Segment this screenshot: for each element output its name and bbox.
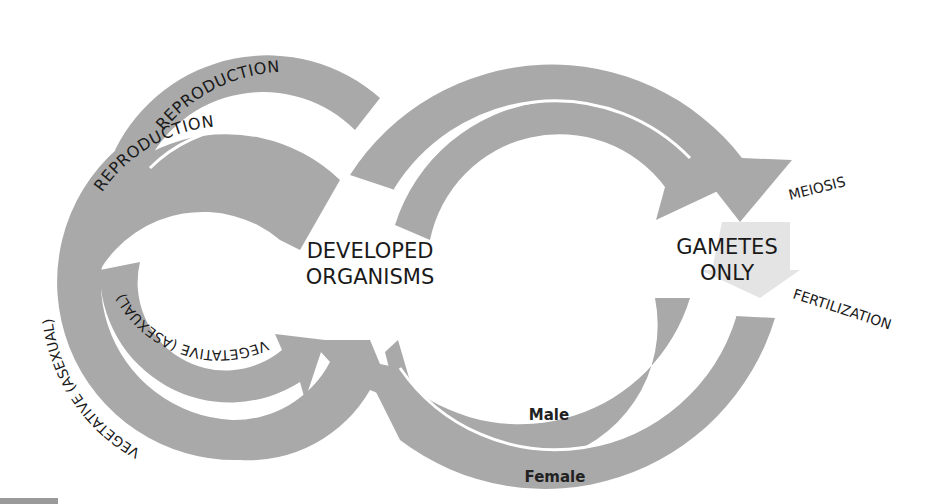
- gametes-only-line1: GAMETES: [676, 235, 777, 259]
- corner-swatch: [0, 498, 58, 504]
- meiosis-label: MEIOSIS: [787, 173, 847, 203]
- fertilization-label: FERTILIZATION: [791, 286, 893, 333]
- male-label: Male: [529, 406, 569, 424]
- developed-organisms-line2: ORGANISMS: [306, 265, 434, 289]
- life-cycle-diagram: REPRODUCTION REPRODUCTION VEGETATIVE (AS…: [0, 0, 934, 504]
- gametes-highlight-arrow: [700, 222, 800, 298]
- female-gamete-path: [360, 316, 775, 489]
- female-label: Female: [525, 468, 586, 486]
- developed-organisms-line1: DEVELOPED: [307, 239, 434, 263]
- gametes-only-line2: ONLY: [700, 261, 754, 285]
